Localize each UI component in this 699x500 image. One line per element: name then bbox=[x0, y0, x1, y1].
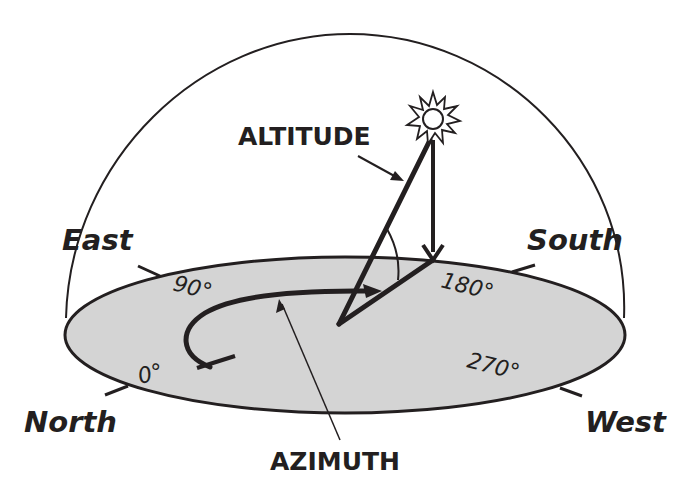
tick-east bbox=[138, 266, 160, 276]
altitude-leader bbox=[358, 156, 398, 178]
altitude-label: ALTITUDE bbox=[238, 122, 371, 151]
direction-east: East bbox=[62, 223, 134, 257]
tick-north bbox=[105, 386, 128, 395]
tick-south bbox=[512, 265, 535, 272]
altitude-leader-arrowhead bbox=[390, 171, 404, 181]
ground-plane bbox=[65, 257, 625, 413]
tick-west bbox=[560, 388, 582, 396]
direction-south: South bbox=[527, 223, 623, 257]
azimuth-label: AZIMUTH bbox=[270, 447, 400, 476]
sun-icon bbox=[407, 92, 460, 144]
direction-west: West bbox=[585, 405, 667, 439]
altitude-azimuth-diagram: ALTITUDE AZIMUTH East South North West 9… bbox=[0, 0, 699, 500]
direction-north: North bbox=[24, 405, 117, 439]
